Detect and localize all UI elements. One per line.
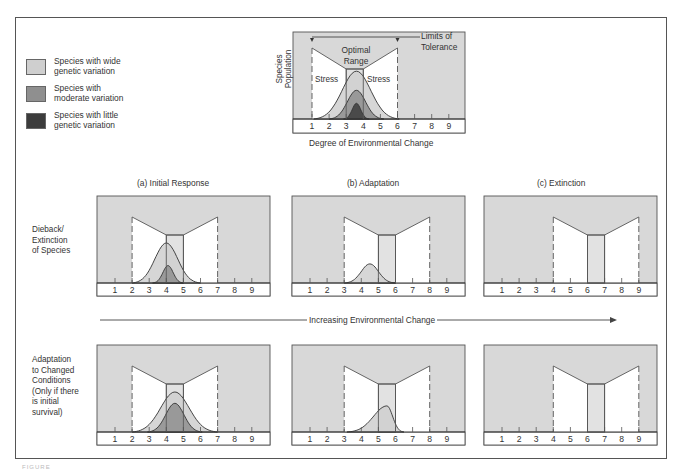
panel-r1c1-tick-label: 7 xyxy=(410,434,415,444)
optimal-range-label: Optimal Range xyxy=(336,45,376,66)
legend-label: Species with little genetic variation xyxy=(54,110,154,130)
panel-r1c0-tick-label: 6 xyxy=(198,434,203,444)
panel-r1c2-tick-label: 4 xyxy=(551,434,556,444)
top-chart-tick-label: 8 xyxy=(429,121,434,131)
panel-r1c1-tick-label: 6 xyxy=(393,434,398,444)
panel-r1c0-tick-label: 9 xyxy=(249,434,254,444)
panel-r0c0-tick-label: 3 xyxy=(147,285,152,295)
panel-r0c0-tick-label: 2 xyxy=(130,285,135,295)
panel-r1c2-tick-label: 5 xyxy=(568,434,573,444)
panel-r0c1-tick-label: 4 xyxy=(359,285,364,295)
panel-r0c1-tick-label: 9 xyxy=(444,285,449,295)
column-title-a: (a) Initial Response xyxy=(137,178,209,188)
panel-r1c2-tick-label: 2 xyxy=(517,434,522,444)
column-title-b: (b) Adaptation xyxy=(347,178,399,188)
panel-r0c2-tick-label: 8 xyxy=(619,285,624,295)
top-y-axis-label: Species Population xyxy=(275,49,293,89)
panel-r0c2-tick-label: 5 xyxy=(568,285,573,295)
row-label-adaptation: Adaptation to Changed Conditions (Only i… xyxy=(32,355,79,418)
legend-item-little: Species with little genetic variation xyxy=(26,110,154,137)
top-chart-tick-label: 9 xyxy=(446,121,451,131)
legend-swatch-little xyxy=(26,113,46,129)
panel-r1c0-tick-label: 1 xyxy=(113,434,118,444)
panel-r0c2-optimal-range xyxy=(588,235,605,283)
panel-r0c1-tick-label: 2 xyxy=(325,285,330,295)
panel-r1c2-tick-label: 9 xyxy=(636,434,641,444)
limits-of-tolerance-label: Limits of Tolerance xyxy=(421,31,457,52)
panel-r0c2-tick-label: 1 xyxy=(500,285,505,295)
top-chart-tick-label: 7 xyxy=(412,121,417,131)
panel-r0c1-tick-label: 8 xyxy=(427,285,432,295)
panel-r1c1-tick-label: 8 xyxy=(427,434,432,444)
top-chart-tick-label: 4 xyxy=(361,121,366,131)
top-chart-tick-label: 2 xyxy=(327,121,332,131)
stress-right-label: Stress xyxy=(367,75,390,86)
panel-r0c1-tick-label: 5 xyxy=(376,285,381,295)
panel-r1c0-tick-label: 7 xyxy=(215,434,220,444)
legend-label: Species with moderate variation xyxy=(54,83,154,103)
panel-r1c1-tick-label: 1 xyxy=(308,434,313,444)
cropped-figure-caption: FIGURE xyxy=(22,464,51,470)
panel-r1c0-tick-label: 2 xyxy=(130,434,135,444)
panel-r1c2-tick-label: 1 xyxy=(500,434,505,444)
panel-r1c1-tick-label: 9 xyxy=(444,434,449,444)
panel-r0c0-tick-label: 8 xyxy=(232,285,237,295)
row-label-dieback: Dieback/ Extinction of Species xyxy=(32,225,70,257)
top-chart-tick-label: 3 xyxy=(344,121,349,131)
increasing-change-label: Increasing Environmental Change xyxy=(307,315,437,325)
legend-label: Species with wide genetic variation xyxy=(54,56,154,76)
panel-r1c0-tick-label: 5 xyxy=(181,434,186,444)
panel-r0c0-tick-label: 7 xyxy=(215,285,220,295)
panel-r0c2-tick-label: 4 xyxy=(551,285,556,295)
legend-swatch-wide xyxy=(26,59,46,75)
panel-r1c0-tick-label: 8 xyxy=(232,434,237,444)
panel-r0c0-tick-label: 5 xyxy=(181,285,186,295)
panel-r1c1-tick-label: 5 xyxy=(376,434,381,444)
panel-r1c1-tick-label: 3 xyxy=(342,434,347,444)
legend-item-moderate: Species with moderate variation xyxy=(26,83,154,110)
panel-r1c2-tick-label: 6 xyxy=(585,434,590,444)
panel-r0c0-tick-label: 9 xyxy=(249,285,254,295)
arrow-head-icon xyxy=(610,317,617,323)
panel-r0c1-tick-label: 7 xyxy=(410,285,415,295)
legend-swatch-moderate xyxy=(26,86,46,102)
top-chart-tick-label: 5 xyxy=(378,121,383,131)
panel-r0c1-tick-label: 3 xyxy=(342,285,347,295)
legend: Species with wide genetic variation Spec… xyxy=(26,56,154,137)
panel-r0c2-tick-label: 6 xyxy=(585,285,590,295)
legend-item-wide: Species with wide genetic variation xyxy=(26,56,154,83)
panel-r1c0-tick-label: 3 xyxy=(147,434,152,444)
stress-left-label: Stress xyxy=(315,75,338,86)
panel-r1c2-tick-label: 3 xyxy=(534,434,539,444)
column-title-c: (c) Extinction xyxy=(537,178,585,188)
panel-r0c0-tick-label: 6 xyxy=(198,285,203,295)
top-x-axis-label: Degree of Environmental Change xyxy=(309,138,433,148)
panel-r1c2-tick-label: 8 xyxy=(619,434,624,444)
top-chart-tick-label: 1 xyxy=(310,121,315,131)
panel-r1c2-tick-label: 7 xyxy=(602,434,607,444)
panel-r0c2-tick-label: 3 xyxy=(534,285,539,295)
panel-r0c0-tick-label: 4 xyxy=(164,285,169,295)
panel-r1c2-optimal-range xyxy=(588,384,605,432)
panel-r0c0-tick-label: 1 xyxy=(113,285,118,295)
panel-r0c2-tick-label: 2 xyxy=(517,285,522,295)
top-chart-tick-label: 6 xyxy=(395,121,400,131)
panel-r0c1-tick-label: 1 xyxy=(308,285,313,295)
panel-r1c1-tick-label: 4 xyxy=(359,434,364,444)
panel-r0c2-tick-label: 7 xyxy=(602,285,607,295)
panel-r0c2-tick-label: 9 xyxy=(636,285,641,295)
panel-r0c1-tick-label: 6 xyxy=(393,285,398,295)
panel-r1c1-tick-label: 2 xyxy=(325,434,330,444)
panel-r1c0-tick-label: 4 xyxy=(164,434,169,444)
